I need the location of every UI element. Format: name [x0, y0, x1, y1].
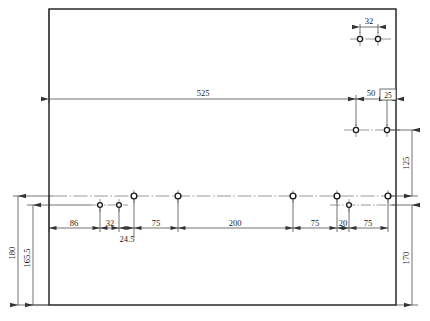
technical-drawing-canvas: 32 525 50 25 125 — [0, 0, 430, 321]
dim-label-50: 50 — [367, 88, 376, 98]
hole-lower-offset-row — [98, 203, 352, 208]
dim-label-chain-75-a: 75 — [152, 218, 161, 228]
dim-label-chain-86: 86 — [70, 218, 79, 228]
dim-label-chain-75-b: 75 — [311, 218, 320, 228]
dimension-overall-525 — [49, 9, 356, 126]
hole-centermarks — [100, 32, 388, 212]
dim-label-170: 170 — [401, 252, 411, 265]
dim-label-125: 125 — [401, 157, 411, 170]
dim-label-165-5: 165.5 — [22, 248, 32, 267]
part-outline — [49, 9, 396, 305]
dim-label-chain-75-c: 75 — [364, 218, 373, 228]
dim-label-chain-32: 32 — [106, 218, 115, 228]
dim-label-chain-200: 200 — [229, 218, 242, 228]
dim-label-overall-525: 525 — [197, 88, 210, 98]
dimension-165-5 — [27, 205, 92, 305]
dim-label-top-32: 32 — [365, 16, 374, 26]
dim-label-180: 180 — [7, 247, 17, 260]
drawing-svg: 32 525 50 25 125 — [0, 0, 430, 321]
dim-label-chain-20: 20 — [339, 218, 348, 228]
dim-label-chain-24-5: 24.5 — [120, 234, 135, 244]
centerlines — [53, 39, 400, 205]
dim-label-25-boxed: 25 — [384, 91, 392, 100]
